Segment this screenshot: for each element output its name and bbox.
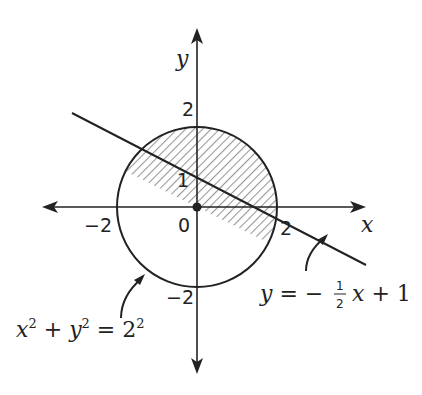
origin-dot [193, 203, 202, 212]
line-equation-prefix: y = − [259, 281, 323, 306]
y-axis-label: y [175, 46, 189, 71]
origin-label: 0 [178, 214, 190, 236]
tick-label-y-2: 2 [182, 98, 194, 120]
tick-label-x-neg2: −2 [84, 214, 112, 236]
tick-label-y-1: 1 [177, 169, 189, 191]
tick-label-x-2: 2 [280, 217, 292, 239]
circle-equation: x2 + y2 = 22 [16, 316, 145, 342]
fraction-denominator: 2 [336, 297, 344, 311]
fraction-numerator: 1 [336, 279, 344, 293]
tick-label-y-neg2: −2 [166, 286, 194, 308]
coordinate-plane: y x 2 1 0 −2 2 −2 x2 + y2 = 22 y = − 1 2… [0, 0, 422, 395]
diagram-canvas: y x 2 1 0 −2 2 −2 x2 + y2 = 22 y = − 1 2… [0, 0, 422, 395]
x-axis-label: x [361, 212, 374, 237]
line-equation-suffix: x + 1 [352, 281, 411, 306]
line-equation: y = − 1 2 x + 1 [259, 279, 411, 311]
